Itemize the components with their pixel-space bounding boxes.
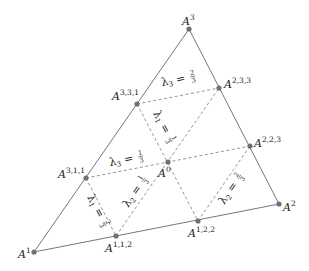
point-labels: A3 A2 A1 A3,3,1 A3,1,1 A2,3,3 A2,2,3 A1,… xyxy=(17,13,296,261)
point-a233 xyxy=(216,85,221,90)
svg-text:λ1 =: λ1 = xyxy=(149,108,173,136)
svg-text:3: 3 xyxy=(139,156,145,165)
label-a223: A2,2,3 xyxy=(253,135,281,150)
point-a2 xyxy=(276,201,281,206)
svg-text:λ3 =: λ3 = xyxy=(108,152,134,170)
svg-text:3: 3 xyxy=(142,178,151,186)
label-a233: A2,3,3 xyxy=(223,76,251,91)
svg-text:λ2 =: λ2 = xyxy=(216,179,241,207)
point-a112 xyxy=(113,233,118,238)
svg-text:λ3 =: λ3 = xyxy=(160,72,186,90)
svg-text:3: 3 xyxy=(97,222,106,229)
lambda-labels: λ3 = 2 3 λ3 = 1 3 λ1 = 1 3 λ1 = 2 3 xyxy=(83,69,247,230)
label-a1: A1 xyxy=(17,246,31,261)
point-a1 xyxy=(31,249,36,254)
svg-text:λ1 =: λ1 = xyxy=(83,192,107,220)
point-a223 xyxy=(247,143,252,148)
point-a311 xyxy=(83,175,88,180)
edge-a1-a2 xyxy=(34,204,279,252)
barycentric-triangle-diagram: A3 A2 A1 A3,3,1 A3,1,1 A2,3,3 A2,2,3 A1,… xyxy=(0,0,309,271)
label-a122: A1,2,2 xyxy=(187,225,215,240)
label-a3: A3 xyxy=(181,13,195,28)
label-lambda3-two-thirds: λ3 = 2 3 xyxy=(160,69,197,91)
line-lambda3-two-thirds xyxy=(137,88,219,104)
label-lambda2-one-third: λ2 = 1 3 xyxy=(119,173,151,210)
point-a122 xyxy=(195,218,200,223)
line-lambda2-two-thirds xyxy=(198,146,250,221)
label-a331: A3,3,1 xyxy=(111,88,139,103)
label-a2: A2 xyxy=(282,199,296,214)
point-a331 xyxy=(134,101,139,106)
label-lambda3-one-third: λ3 = 1 3 xyxy=(108,149,145,171)
label-a0: A0 xyxy=(157,165,171,180)
point-a0 xyxy=(165,159,170,164)
label-lambda1-two-thirds: λ1 = 2 3 xyxy=(83,192,113,230)
label-lambda1-one-third: λ1 = 1 3 xyxy=(149,108,179,146)
edge-a2-a3 xyxy=(189,29,279,204)
svg-text:3: 3 xyxy=(238,175,247,183)
label-a112: A1,1,2 xyxy=(104,240,132,255)
svg-text:3: 3 xyxy=(191,76,197,85)
svg-text:3: 3 xyxy=(163,138,172,145)
svg-text:λ2 =: λ2 = xyxy=(120,182,145,210)
label-a311: A3,1,1 xyxy=(57,166,85,181)
